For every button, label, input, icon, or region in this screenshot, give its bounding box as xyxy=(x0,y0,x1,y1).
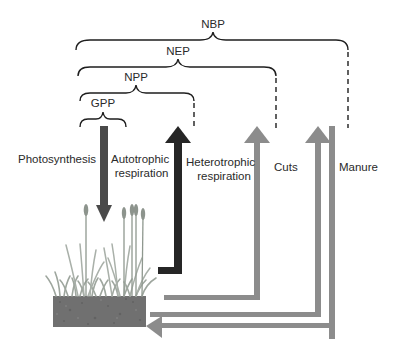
dashed-guides xyxy=(194,52,348,130)
heterotrophic-line1: Heterotrophic xyxy=(186,156,255,168)
heterotrophic-respiration-label: Heterotrophic respiration xyxy=(186,155,255,183)
nbp-brace xyxy=(76,32,348,50)
autotrophic-respiration-arrow-icon xyxy=(158,126,191,274)
manure-label: Manure xyxy=(339,160,378,174)
nep-label: NEP xyxy=(166,45,190,57)
gpp-brace xyxy=(80,112,126,127)
nep-brace xyxy=(78,59,276,76)
autotrophic-line1: Autotrophic xyxy=(111,153,169,165)
photosynthesis-arrow-icon xyxy=(96,126,112,222)
grassland-icon xyxy=(46,204,156,327)
npp-label: NPP xyxy=(124,71,148,83)
photosynthesis-label: Photosynthesis xyxy=(18,152,96,166)
autotrophic-respiration-label: Autotrophic respiration xyxy=(111,152,169,180)
gpp-label: GPP xyxy=(91,97,115,109)
heterotrophic-line2: respiration xyxy=(190,170,251,182)
cuts-label: Cuts xyxy=(274,160,298,174)
nbp-label: NBP xyxy=(201,18,225,30)
soil-block xyxy=(53,296,146,327)
autotrophic-line2: respiration xyxy=(112,167,169,179)
